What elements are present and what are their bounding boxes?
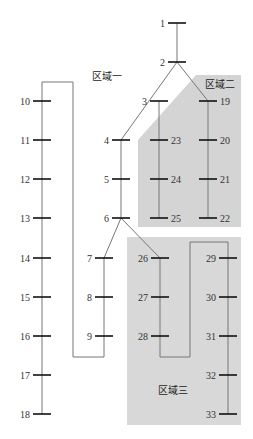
bus-11: 11 bbox=[20, 135, 51, 146]
bus-label: 14 bbox=[20, 253, 30, 264]
bus-label: 33 bbox=[206, 409, 216, 420]
bus-3: 3 bbox=[142, 96, 168, 107]
network-diagram: 1234567891011121314151617181920212223242… bbox=[0, 0, 253, 439]
bus-label: 13 bbox=[20, 213, 30, 224]
zone1-label: 区域一 bbox=[92, 70, 122, 82]
zone2-label: 区域二 bbox=[205, 78, 235, 90]
bus-label: 28 bbox=[138, 331, 148, 342]
bus-9: 9 bbox=[87, 331, 113, 342]
bus-label: 31 bbox=[206, 331, 216, 342]
bus-5: 5 bbox=[104, 174, 130, 185]
bus-label: 16 bbox=[20, 331, 30, 342]
bus-label: 29 bbox=[206, 253, 216, 264]
bus-14: 14 bbox=[20, 253, 51, 264]
bus-12: 12 bbox=[20, 174, 51, 185]
bus-label: 24 bbox=[171, 174, 181, 185]
bus-label: 3 bbox=[142, 96, 147, 107]
bus-2: 2 bbox=[160, 57, 186, 68]
bus-label: 10 bbox=[20, 96, 30, 107]
bus-label: 4 bbox=[104, 135, 109, 146]
bus-18: 18 bbox=[20, 409, 51, 420]
bus-label: 17 bbox=[20, 370, 30, 381]
bus-label: 21 bbox=[220, 174, 230, 185]
bus-4: 4 bbox=[104, 135, 130, 146]
bus-label: 19 bbox=[220, 96, 230, 107]
bus-8: 8 bbox=[87, 292, 113, 303]
bus-10: 10 bbox=[20, 96, 51, 107]
bus-label: 5 bbox=[104, 174, 109, 185]
bus-label: 26 bbox=[138, 253, 148, 264]
bus-15: 15 bbox=[20, 292, 51, 303]
bus-label: 1 bbox=[160, 18, 165, 29]
bus-17: 17 bbox=[20, 370, 51, 381]
bus-label: 18 bbox=[20, 409, 30, 420]
bus-label: 2 bbox=[160, 57, 165, 68]
bus-label: 6 bbox=[104, 213, 109, 224]
bus-label: 22 bbox=[220, 213, 230, 224]
bus-label: 23 bbox=[171, 135, 181, 146]
bus-6: 6 bbox=[104, 213, 130, 224]
bus-label: 32 bbox=[206, 370, 216, 381]
bus-label: 20 bbox=[220, 135, 230, 146]
bus-label: 9 bbox=[87, 331, 92, 342]
bus-7: 7 bbox=[87, 253, 113, 264]
bus-label: 12 bbox=[20, 174, 30, 185]
bus-1: 1 bbox=[160, 18, 186, 29]
bus-label: 15 bbox=[20, 292, 30, 303]
zone3-label: 区域三 bbox=[158, 384, 188, 396]
bus-label: 25 bbox=[171, 213, 181, 224]
bus-label: 27 bbox=[138, 292, 148, 303]
bus-label: 8 bbox=[87, 292, 92, 303]
bus-label: 7 bbox=[87, 253, 92, 264]
bus-label: 11 bbox=[20, 135, 30, 146]
bus-16: 16 bbox=[20, 331, 51, 342]
bus-13: 13 bbox=[20, 213, 51, 224]
bus-label: 30 bbox=[206, 292, 216, 303]
